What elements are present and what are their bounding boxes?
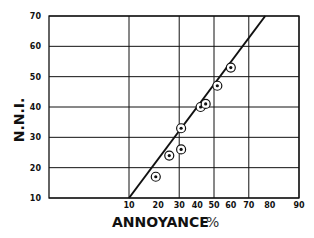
y-tick-label: 40 bbox=[30, 103, 42, 112]
data-point bbox=[177, 145, 186, 154]
y-tick-label: 10 bbox=[30, 194, 42, 203]
x-tick-label: 70 bbox=[243, 201, 255, 210]
grid bbox=[49, 16, 299, 198]
x-tick-label: 20 bbox=[153, 201, 165, 210]
y-tick-label: 70 bbox=[30, 12, 42, 21]
x-tick-label: 30 bbox=[174, 201, 186, 210]
x-tick-label: 50 bbox=[208, 201, 220, 210]
x-tick-label: 90 bbox=[293, 201, 305, 210]
data-points bbox=[151, 63, 235, 181]
x-axis-unit: % bbox=[206, 214, 219, 230]
x-tick-label: 80 bbox=[264, 201, 276, 210]
x-axis-label: ANNOYANCE bbox=[112, 214, 209, 230]
data-point bbox=[177, 124, 186, 133]
data-point bbox=[165, 151, 174, 160]
y-axis-label: N.N.I. bbox=[11, 98, 27, 143]
y-tick-label: 60 bbox=[30, 42, 42, 51]
y-tick-label: 50 bbox=[30, 73, 42, 82]
data-point bbox=[226, 63, 235, 72]
x-tick-label: 60 bbox=[225, 201, 237, 210]
y-tick-label: 30 bbox=[30, 133, 42, 142]
data-point bbox=[213, 81, 222, 90]
axis-ticks: 10203040506070102030405060708090 bbox=[30, 12, 305, 210]
y-tick-label: 20 bbox=[30, 164, 42, 173]
x-tick-label: 10 bbox=[123, 201, 135, 210]
data-point bbox=[151, 172, 160, 181]
chart: 10203040506070102030405060708090 N.N.I. … bbox=[0, 0, 314, 238]
data-point bbox=[201, 99, 210, 108]
x-tick-label: 40 bbox=[192, 201, 204, 210]
